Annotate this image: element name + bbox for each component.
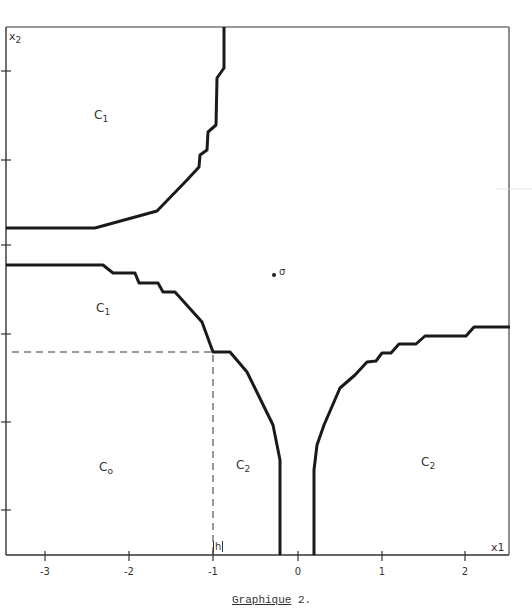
region-label: C1 [94, 108, 108, 124]
region-label: C2 [236, 458, 250, 474]
plot-area [0, 0, 532, 616]
x-axis-ticks [45, 551, 465, 561]
region-subscript: 1 [102, 114, 108, 124]
x-axis-label: x1 [491, 541, 505, 554]
chart-caption: Graphique 2. [232, 594, 311, 606]
x-tick-label: -2 [124, 566, 134, 577]
caption-main: Graphique [232, 594, 291, 606]
region-label: C2 [421, 455, 435, 471]
region-subscript: 2 [429, 461, 435, 471]
boundary-upper-C1 [6, 27, 224, 228]
sigma-point [272, 273, 276, 277]
plot-frame [6, 27, 532, 555]
x-tick-label: 0 [295, 566, 301, 577]
x-tick-label: 1 [379, 566, 385, 577]
h-marker-label: h [213, 541, 223, 552]
region-label: C1 [96, 301, 110, 317]
caption-suffix: 2. [291, 594, 311, 606]
x-tick-label: -3 [40, 566, 50, 577]
y-axis-label: x2 [9, 30, 21, 45]
x-tick-label: 2 [462, 566, 468, 577]
boundary-right-C2 [314, 327, 510, 555]
region-subscript: 2 [244, 464, 250, 474]
boundary-curves [6, 27, 510, 555]
h-projection [12, 352, 213, 555]
region-subscript: o [107, 466, 113, 476]
boundary-lower-C1 [6, 265, 280, 555]
sigma-label: σ [279, 266, 285, 277]
region-subscript: 1 [104, 307, 110, 317]
region-label: Co [99, 460, 113, 476]
sigma-dot [272, 273, 276, 277]
x-tick-label: -1 [208, 566, 218, 577]
